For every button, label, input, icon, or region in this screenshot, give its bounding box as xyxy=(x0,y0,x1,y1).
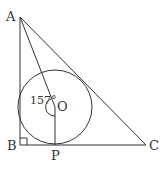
label-c: C xyxy=(149,138,159,153)
right-angle-mark xyxy=(20,138,27,145)
segment-ac xyxy=(20,17,146,145)
angle-label: 157° xyxy=(30,94,57,107)
geometry-diagram: A B C O P 157° xyxy=(0,0,167,169)
label-o: O xyxy=(57,99,68,114)
label-p: P xyxy=(51,148,60,163)
label-b: B xyxy=(7,138,17,153)
label-a: A xyxy=(5,9,16,24)
